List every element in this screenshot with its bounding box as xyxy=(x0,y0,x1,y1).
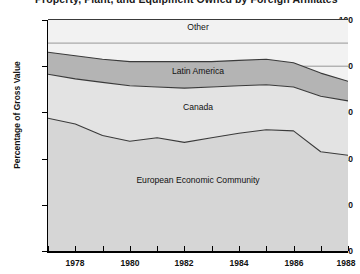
x-tick-mark xyxy=(48,246,49,251)
band-label-latin-america: Latin America xyxy=(48,66,348,76)
x-tick-mark xyxy=(266,246,267,251)
x-tick-mark xyxy=(212,246,213,251)
x-tick-label: 1988 xyxy=(326,258,360,268)
x-tick-mark xyxy=(157,246,158,251)
band-label-other: Other xyxy=(48,22,348,32)
band-label-canada: Canada xyxy=(48,102,348,112)
x-tick-label: 1980 xyxy=(110,258,150,268)
x-tick-mark xyxy=(239,246,240,251)
y-axis-title: Percentage of Gross Value xyxy=(12,35,22,195)
x-tick-label: 1978 xyxy=(55,258,95,268)
stacked-area-svg xyxy=(48,20,348,251)
x-tick-mark xyxy=(103,246,104,251)
x-tick-mark xyxy=(130,246,131,251)
plot-top-border xyxy=(48,19,348,20)
x-tick-mark xyxy=(321,246,322,251)
x-tick-mark xyxy=(75,246,76,251)
x-tick-label: 1982 xyxy=(164,258,204,268)
x-tick-label: 1984 xyxy=(219,258,259,268)
x-tick-mark xyxy=(184,246,185,251)
y-axis-line xyxy=(47,20,48,252)
x-tick-label: 1986 xyxy=(274,258,314,268)
band-label-eec: European Economic Community xyxy=(48,175,348,185)
x-tick-mark xyxy=(294,246,295,251)
chart-title: Property, Plant, and Equipment Owned by … xyxy=(35,0,353,5)
x-tick-mark xyxy=(348,246,349,251)
plot-area: Other Latin America Canada European Econ… xyxy=(48,20,348,251)
x-axis-line xyxy=(47,251,348,253)
